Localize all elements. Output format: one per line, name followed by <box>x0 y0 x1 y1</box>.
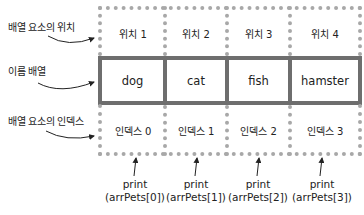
print-argument: (arrPets[3]) <box>282 191 362 204</box>
position-cell: 위치 1 <box>102 10 164 56</box>
up-arrow-0 <box>134 158 136 176</box>
index-cell: 인덱스 3 <box>292 108 358 152</box>
up-arrow-1 <box>195 158 197 176</box>
index-cell: 인덱스 1 <box>167 108 225 152</box>
print-keyword: print <box>282 178 362 191</box>
array-element: fish <box>229 60 288 101</box>
position-cell: 위치 2 <box>167 10 225 56</box>
index-cell: 인덱스 0 <box>102 108 164 152</box>
up-arrow-3 <box>320 158 322 176</box>
array-element: hamster <box>292 60 358 101</box>
print-label-3: print (arrPets[3]) <box>282 178 362 204</box>
array-element: dog <box>102 60 163 101</box>
index-cell: 인덱스 2 <box>229 108 288 152</box>
up-arrow-2 <box>257 158 259 176</box>
curved-arrow-index <box>46 131 94 138</box>
position-cell: 위치 4 <box>292 10 358 56</box>
curved-arrow-position <box>48 36 94 43</box>
curved-arrow-name <box>38 82 94 89</box>
position-cell: 위치 3 <box>229 10 288 56</box>
array-element: cat <box>167 60 225 101</box>
